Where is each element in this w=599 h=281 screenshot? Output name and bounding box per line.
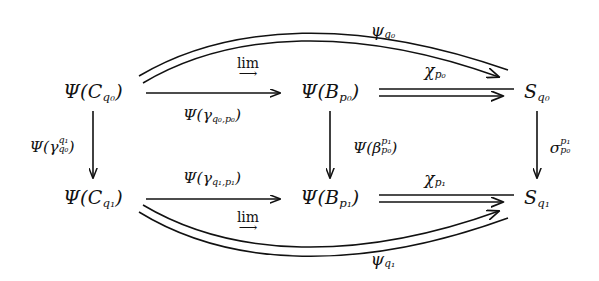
label-psi-beta-p1-p0: Ψ(βp₁p₀) xyxy=(353,135,398,156)
label-sigma-p1-p0: σp₁p₀ xyxy=(550,135,571,156)
node-psi-b-p1: Ψ(Bp₁) xyxy=(301,186,360,210)
label-psi-gamma-q1-p1: Ψ(γq₁,p₁) xyxy=(183,169,241,188)
label-psi-q0: ψq₀ xyxy=(371,20,395,41)
node-s-q1: Sq₁ xyxy=(524,186,550,210)
label-lim-top: lim⟶ xyxy=(237,57,259,80)
label-chi-p0: χp₀ xyxy=(424,60,445,81)
node-psi-c-q0: Ψ(Cq₀) xyxy=(63,80,123,104)
arrow-bottom-chi xyxy=(379,195,514,202)
node-psi-c-q1: Ψ(Cq₁) xyxy=(63,186,123,210)
stack-sup-sub: p₁p₀ xyxy=(381,137,391,155)
arrow-top-chi xyxy=(379,89,514,96)
label-psi-gamma-q1-q0: Ψ(γq₁q₀) xyxy=(30,134,75,155)
arrow-bottom-curve-psi xyxy=(139,205,508,256)
node-s-q0: Sq₀ xyxy=(524,80,550,104)
stack-sup-sub: q₁q₀ xyxy=(58,136,68,154)
label-lim-bottom: lim⟶ xyxy=(237,211,259,234)
node-psi-b-p0: Ψ(Bp₀) xyxy=(301,80,360,104)
diagram-canvas xyxy=(0,0,599,281)
label-chi-p1: χp₁ xyxy=(424,168,445,189)
commutative-diagram: Ψ(Cq₀) Ψ(Bp₀) Sq₀ Ψ(Cq₁) Ψ(Bp₁) Sq₁ ψq₀ … xyxy=(0,0,599,281)
label-psi-gamma-q0-p0: Ψ(γq₀,p₀) xyxy=(183,106,241,125)
arrow-top-curve-psi xyxy=(139,33,508,83)
stack-sup-sub: p₁p₀ xyxy=(560,137,570,155)
label-psi-q1: ψq₁ xyxy=(371,249,395,270)
